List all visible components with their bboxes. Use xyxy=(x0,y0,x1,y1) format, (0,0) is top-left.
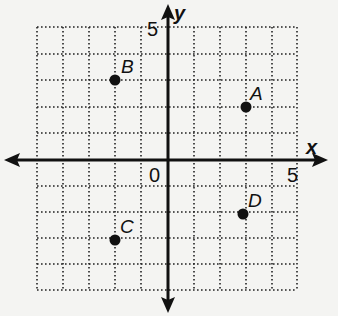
x-axis xyxy=(4,153,328,167)
coordinate-plane: y x 5 5 0 A B C D xyxy=(0,0,338,316)
y-tick-label: 5 xyxy=(147,18,158,40)
point-a: A xyxy=(241,83,263,113)
svg-text:A: A xyxy=(249,83,263,104)
svg-text:D: D xyxy=(248,190,262,211)
x-tick-label: 5 xyxy=(287,164,298,186)
x-axis-label: x xyxy=(305,136,318,158)
point-b: B xyxy=(110,56,135,86)
origin-label: 0 xyxy=(149,164,160,186)
svg-text:B: B xyxy=(121,56,134,77)
svg-text:C: C xyxy=(120,216,134,237)
y-axis-label: y xyxy=(173,2,186,24)
point-c: C xyxy=(110,216,135,246)
point-d: D xyxy=(238,190,263,220)
